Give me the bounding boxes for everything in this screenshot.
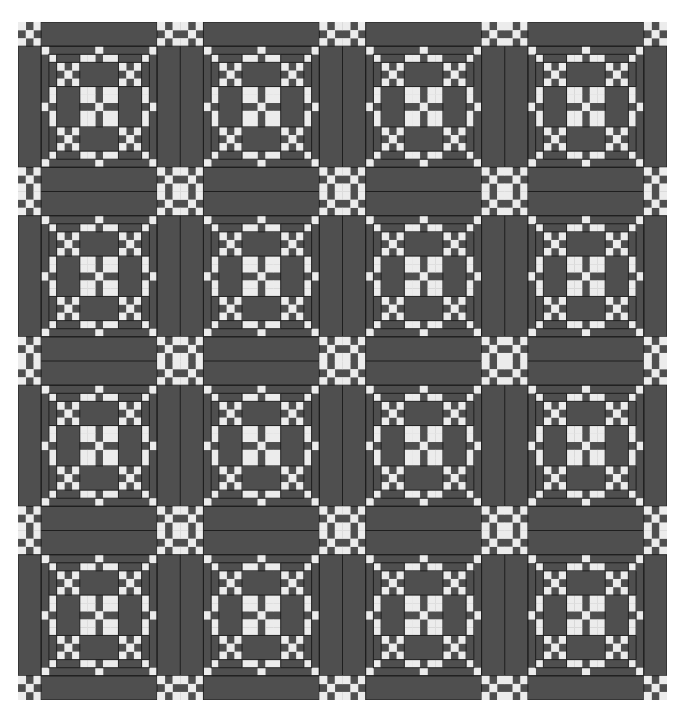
cornerstone-light-cell xyxy=(18,676,26,684)
block-light-cell xyxy=(103,151,111,159)
cornerstone-light-cell xyxy=(358,506,366,514)
block-light-cell xyxy=(273,87,281,95)
cornerstone-light-cell xyxy=(512,684,520,692)
cornerstone-light-cell xyxy=(644,506,652,514)
block-light-cell xyxy=(80,619,88,627)
block-light-cell xyxy=(72,79,80,87)
block-light-cell xyxy=(420,668,428,676)
block-light-cell xyxy=(458,248,466,256)
block-light-cell xyxy=(95,498,103,506)
cornerstone-light-cell xyxy=(196,337,204,345)
block-light-cell xyxy=(474,272,482,280)
block-light-cell xyxy=(281,248,289,256)
block-light-cell xyxy=(427,95,435,103)
block-light-cell xyxy=(72,466,80,474)
cornerstone-light-cell xyxy=(18,692,26,700)
cornerstone-light-cell xyxy=(33,361,41,369)
block-light-cell xyxy=(312,329,320,337)
block-light-cell xyxy=(103,224,111,232)
block-light-cell xyxy=(142,280,150,288)
cornerstone-light-cell xyxy=(520,531,528,539)
block-light-cell xyxy=(95,46,103,54)
block-light-cell xyxy=(134,587,142,595)
block-light-cell xyxy=(427,224,435,232)
block-light-cell xyxy=(435,434,443,442)
cornerstone-light-cell xyxy=(343,192,351,200)
block-light-cell xyxy=(203,611,211,619)
cornerstone-light-cell xyxy=(173,531,181,539)
cornerstone-light-cell xyxy=(18,531,26,539)
cornerstone-light-cell xyxy=(319,353,327,361)
block-light-cell xyxy=(543,587,551,595)
cornerstone-light-cell xyxy=(505,353,513,361)
block-light-cell xyxy=(373,490,381,498)
block-light-cell xyxy=(288,579,296,587)
block-light-cell xyxy=(142,450,150,458)
block-light-cell xyxy=(466,434,474,442)
block-light-cell xyxy=(88,111,96,119)
block-light-cell xyxy=(574,458,582,466)
block-light-cell xyxy=(605,232,613,240)
block-light-cell xyxy=(250,603,258,611)
cornerstone-light-cell xyxy=(497,22,505,30)
block-light-cell xyxy=(111,563,119,571)
block-light-cell xyxy=(567,660,575,668)
block-light-cell xyxy=(404,426,412,434)
block-light-cell xyxy=(536,95,544,103)
block-light-cell xyxy=(551,579,559,587)
block-light-cell xyxy=(118,482,126,490)
block-light-cell xyxy=(118,652,126,660)
block-light-cell xyxy=(64,474,72,482)
block-light-cell xyxy=(234,143,242,151)
block-light-cell xyxy=(242,256,250,264)
block-light-cell xyxy=(597,264,605,272)
block-light-cell xyxy=(64,579,72,587)
block-light-cell xyxy=(373,224,381,232)
block-light-cell xyxy=(149,103,157,111)
block-light-cell xyxy=(219,143,227,151)
block-light-cell xyxy=(80,288,88,296)
block-light-cell xyxy=(142,54,150,62)
cornerstone-light-cell xyxy=(358,183,366,191)
cornerstone-light-cell xyxy=(196,676,204,684)
block-light-cell xyxy=(412,321,420,329)
block-light-cell xyxy=(528,329,536,337)
cornerstone-light-cell xyxy=(26,514,34,522)
block-light-cell xyxy=(118,401,126,409)
block-light-cell xyxy=(118,466,126,474)
block-light-cell xyxy=(258,272,266,280)
block-light-cell xyxy=(227,240,235,248)
cornerstone-light-cell xyxy=(26,345,34,353)
block-light-cell xyxy=(628,563,636,571)
block-light-cell xyxy=(628,627,636,635)
block-light-cell xyxy=(621,62,629,70)
cornerstone-light-cell xyxy=(652,514,660,522)
block-light-cell xyxy=(49,87,57,95)
block-light-cell xyxy=(628,603,636,611)
block-light-cell xyxy=(435,321,443,329)
cornerstone-light-cell xyxy=(520,183,528,191)
block-light-cell xyxy=(265,54,273,62)
block-light-cell xyxy=(412,627,420,635)
block-light-cell xyxy=(265,288,273,296)
block-light-cell xyxy=(288,474,296,482)
block-light-cell xyxy=(427,434,435,442)
block-light-cell xyxy=(412,490,420,498)
block-light-cell xyxy=(528,272,536,280)
block-light-cell xyxy=(536,458,544,466)
block-light-cell xyxy=(466,458,474,466)
block-light-cell xyxy=(621,635,629,643)
block-light-cell xyxy=(466,288,474,296)
block-light-cell xyxy=(628,119,636,127)
cornerstone-light-cell xyxy=(180,38,188,46)
block-light-cell xyxy=(273,660,281,668)
block-light-cell xyxy=(474,216,482,224)
block-light-cell xyxy=(466,151,474,159)
block-light-cell xyxy=(296,571,304,579)
block-light-cell xyxy=(373,95,381,103)
block-light-cell xyxy=(435,151,443,159)
block-light-cell xyxy=(366,385,374,393)
block-light-cell xyxy=(559,587,567,595)
block-light-cell xyxy=(574,119,582,127)
block-light-cell xyxy=(458,571,466,579)
